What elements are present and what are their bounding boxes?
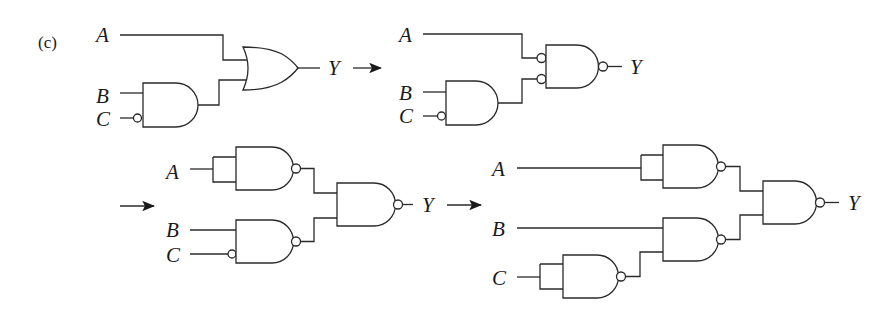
step-2-circuit: A B C Y <box>397 23 644 128</box>
nand-gate-icon <box>763 181 817 224</box>
wire-and-out <box>198 80 249 105</box>
nand-gate-icon <box>236 220 294 263</box>
input-label-c: C <box>399 104 414 128</box>
inverter-bubble-icon <box>292 237 301 246</box>
nand-gate-icon <box>236 147 294 190</box>
inverter-bubble-icon <box>717 162 726 171</box>
input-label-c: C <box>166 243 181 267</box>
output-label-y: Y <box>422 193 436 217</box>
and-gate-icon <box>446 81 498 125</box>
input-label-c: C <box>492 266 507 290</box>
and-gate-icon <box>143 83 198 127</box>
wire-nand-bc-out <box>726 215 764 240</box>
step-4-circuit: A B C Y <box>490 145 862 298</box>
step-1-circuit: A B C Y <box>94 23 381 131</box>
input-label-a: A <box>164 160 179 184</box>
nand-gate-icon <box>546 45 599 88</box>
input-label-b: B <box>96 84 109 108</box>
wire-and-out <box>498 79 537 103</box>
wire-a <box>423 34 537 58</box>
wire-a-tie <box>641 155 663 180</box>
nand-gate-icon <box>337 183 396 226</box>
wire-nand-bc-out <box>301 218 338 242</box>
input-label-b: B <box>399 81 412 105</box>
inverter-bubble-icon <box>617 272 626 281</box>
or-gate-icon <box>243 47 298 90</box>
nand-gate-icon <box>563 255 619 298</box>
step-3-circuit: A B C Y <box>120 147 481 267</box>
inverter-bubble-icon <box>537 54 546 63</box>
inverter-bubble-icon <box>599 62 608 71</box>
input-label-b: B <box>166 218 179 242</box>
output-label-y: Y <box>328 56 342 80</box>
logic-conversion-diagram: (c) A B C Y A B C Y <box>0 0 895 310</box>
inverter-bubble-icon <box>394 200 403 209</box>
input-label-a: A <box>397 23 412 47</box>
wire-nand-a-out <box>301 169 338 194</box>
inverter-bubble-icon <box>292 164 301 173</box>
inverter-bubble-icon <box>537 75 546 84</box>
wire-c-tie <box>540 264 563 289</box>
input-label-c: C <box>96 107 111 131</box>
wire-nand-c-out <box>626 252 664 277</box>
part-label: (c) <box>38 33 57 52</box>
nand-gate-icon <box>663 218 719 261</box>
inverter-bubble-icon <box>228 250 236 258</box>
inverter-bubble-icon <box>134 114 142 122</box>
wire-a <box>120 35 250 60</box>
input-label-a: A <box>94 23 109 47</box>
inverter-bubble-icon <box>717 235 726 244</box>
wire-a-tie <box>213 157 236 182</box>
output-label-y: Y <box>630 55 644 79</box>
nand-gate-icon <box>663 145 719 188</box>
input-label-a: A <box>490 157 505 181</box>
inverter-bubble-icon <box>816 198 825 207</box>
inverter-bubble-icon <box>438 112 446 120</box>
wire-nand-a-out <box>726 167 764 192</box>
output-label-y: Y <box>848 191 862 215</box>
input-label-b: B <box>492 217 505 241</box>
